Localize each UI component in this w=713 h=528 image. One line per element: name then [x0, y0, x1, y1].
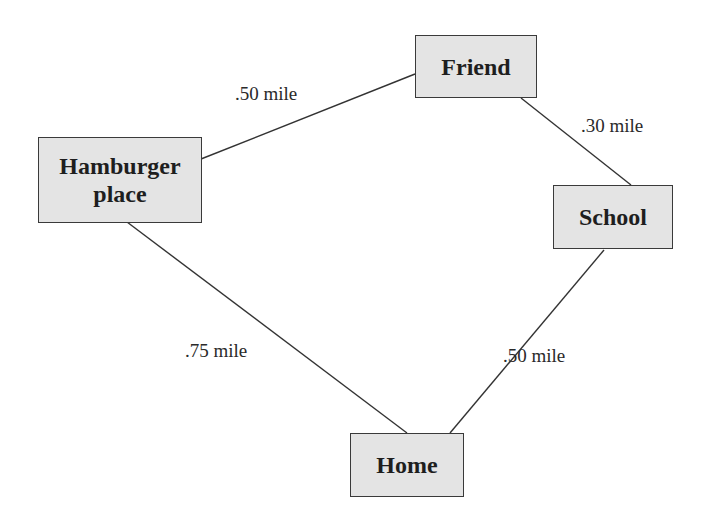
edge-label-hamburger-home: .75 mile: [185, 340, 247, 362]
edge-hamburger-home: [127, 222, 407, 433]
edge-school-home: [450, 250, 604, 433]
node-home-label: Home: [376, 451, 437, 479]
edge-friend-school: [521, 98, 631, 185]
edge-label-school-home: .50 mile: [503, 345, 565, 367]
node-home: Home: [350, 433, 464, 497]
node-hamburger-place: Hamburger place: [38, 137, 202, 223]
edge-hamburger-friend: [201, 74, 415, 159]
edge-label-hamburger-friend: .50 mile: [235, 83, 297, 105]
node-hamburger-label-line2: place: [93, 180, 146, 208]
edge-label-friend-school: .30 mile: [581, 115, 643, 137]
node-hamburger-label-line1: Hamburger: [59, 152, 180, 180]
route-diagram: Friend Hamburger place School Home .50 m…: [0, 0, 713, 528]
node-friend: Friend: [415, 35, 537, 98]
node-friend-label: Friend: [441, 53, 510, 81]
node-school-label: School: [579, 203, 647, 231]
node-school: School: [553, 185, 673, 249]
